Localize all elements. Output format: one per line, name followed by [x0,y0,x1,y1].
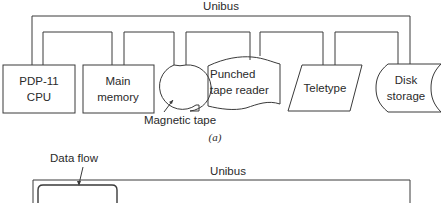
cpu-label-line1: PDP-11 [19,75,58,87]
bus-segment-ptr-teletype [260,32,323,65]
device-main-memory: Main memory [83,65,154,113]
cpu-label-line2: CPU [27,91,51,103]
bus-label-a: Unibus [203,0,239,12]
bus-segment-memory-tape [124,32,174,65]
bus-label-b: Unibus [210,165,246,177]
device-teletype: Teletype [288,65,362,111]
data-flow-label: Data flow [50,152,99,164]
teletype-label: Teletype [304,82,347,94]
caption-a: (a) [209,131,222,144]
ptr-label-line1: Punched [210,68,255,80]
magnetic-tape-label: Magnetic tape [144,114,216,126]
device-disk-storage: Disk storage [376,64,441,112]
memory-label-line1: Main [106,75,131,87]
bus-segment-cpu-memory [43,32,112,65]
device-punched-tape-reader: Punched tape reader [208,57,280,110]
bus-line-b [33,180,410,203]
device-magnetic-tape: Magnetic tape [144,65,216,126]
bus-outer-line [32,16,410,65]
bus-segment-teletype-disk [335,32,398,65]
disk-label-line1: Disk [395,74,418,86]
memory-label-line2: memory [97,91,139,103]
unibus-diagram: Unibus PDP-11 CPU Main memory Magnetic t… [0,0,441,203]
device-cpu: PDP-11 CPU [3,65,75,113]
bus-segment-tape-ptr [186,32,250,65]
ptr-label-line2: tape reader [210,84,269,96]
data-flow-box [38,185,117,203]
disk-label-line2: storage [387,90,425,102]
